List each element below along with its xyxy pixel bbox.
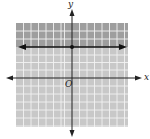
arrow-right-icon (135, 76, 142, 81)
arrow-left-icon (6, 76, 13, 81)
arrow-down-icon (70, 130, 75, 137)
arrow-up-icon (70, 9, 75, 16)
origin-label: O (65, 80, 72, 89)
y-intercept-point (70, 45, 74, 49)
y-axis-label: y (68, 0, 73, 9)
coordinate-plane (0, 0, 150, 139)
x-axis-label: x (144, 73, 149, 82)
